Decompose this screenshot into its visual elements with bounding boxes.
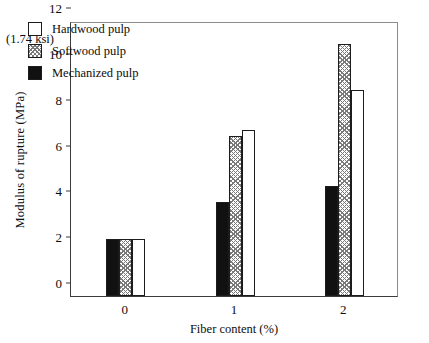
bar-softwood-pulp-1 — [229, 136, 242, 296]
legend-label: Hardwood pulp — [52, 22, 130, 37]
y-axis-title: Modulus of rupture (MPa) — [13, 91, 28, 228]
bar-hardwood-pulp-0 — [132, 239, 145, 296]
x-tick-label-0: 0 — [121, 302, 128, 318]
legend-item-hardwood-pulp: Hardwood pulp — [28, 18, 138, 40]
y-tick-4: 4 — [56, 185, 72, 198]
y-tick-label: 8 — [56, 93, 63, 106]
legend-swatch-white — [28, 22, 42, 36]
x-tick-label-1: 1 — [231, 302, 238, 318]
bar-softwood-pulp-0 — [119, 239, 132, 296]
legend-item-mechanized-pulp: Mechanized pulp — [28, 62, 138, 84]
y-tick-label: 12 — [49, 2, 62, 15]
y-tick-mark — [66, 237, 71, 238]
y-tick-mark — [66, 8, 71, 9]
y-tick-label: 6 — [56, 139, 63, 152]
y-tick-6: 6 — [56, 139, 72, 152]
bar-mechanized-pulp-2 — [325, 186, 338, 296]
y-tick-0: 0 — [56, 277, 72, 290]
bar-chart-figure: (1.74 ksi) Modulus of rupture (MPa) 0246… — [0, 0, 429, 343]
bar-hardwood-pulp-1 — [242, 130, 255, 296]
bar-hardwood-pulp-2 — [351, 90, 364, 296]
y-tick-2: 2 — [56, 231, 72, 244]
chart-legend: Hardwood pulpSoftwood pulpMechanized pul… — [28, 18, 138, 84]
bar-mechanized-pulp-0 — [106, 239, 119, 296]
y-tick-mark — [66, 191, 71, 192]
y-tick-label: 2 — [56, 231, 63, 244]
legend-swatch-black — [28, 66, 42, 80]
x-axis-title: Fiber content (%) — [190, 322, 278, 337]
y-tick-mark — [66, 145, 71, 146]
y-tick-mark — [66, 283, 71, 284]
legend-label: Softwood pulp — [52, 44, 126, 59]
legend-label: Mechanized pulp — [52, 66, 138, 81]
legend-swatch-hatch — [28, 44, 42, 58]
legend-item-softwood-pulp: Softwood pulp — [28, 40, 138, 62]
y-tick-label: 4 — [56, 185, 63, 198]
y-tick-mark — [66, 99, 71, 100]
y-tick-8: 8 — [56, 93, 72, 106]
y-tick-label: 0 — [56, 277, 63, 290]
bar-mechanized-pulp-1 — [216, 202, 229, 296]
x-tick-label-2: 2 — [340, 302, 347, 318]
bar-softwood-pulp-2 — [338, 44, 351, 296]
y-tick-12: 12 — [49, 2, 71, 15]
